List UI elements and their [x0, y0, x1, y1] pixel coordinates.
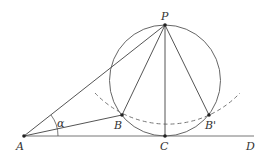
point-B-prime	[207, 113, 211, 117]
geometry-diagram: P A B B' C D α	[0, 0, 269, 159]
line-PBprime	[165, 25, 209, 115]
line-AP	[24, 25, 165, 136]
point-C	[163, 134, 167, 138]
point-P	[163, 23, 167, 27]
point-B	[120, 113, 124, 117]
label-D: D	[245, 140, 255, 153]
line-AB	[24, 115, 122, 136]
label-A: A	[15, 140, 24, 153]
label-B-prime: B'	[204, 119, 216, 132]
label-B: B	[113, 119, 122, 132]
angle-alpha-label: α	[57, 117, 65, 130]
label-P: P	[160, 10, 169, 23]
label-C: C	[160, 140, 169, 153]
point-A	[22, 134, 26, 138]
